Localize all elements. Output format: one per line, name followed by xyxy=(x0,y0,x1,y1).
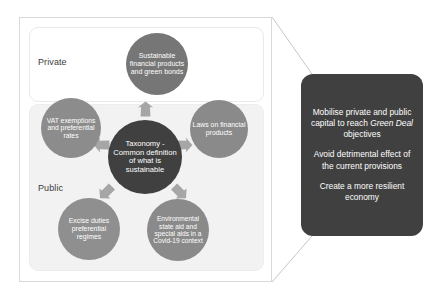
callout-text-post: objectives xyxy=(343,129,380,139)
node-label: Laws on financial products xyxy=(192,121,246,136)
node-taxonomy-center[interactable]: Taxonomy - Common definition of what is … xyxy=(108,120,182,194)
arrow-down-left-icon xyxy=(98,182,115,198)
node-sustainable-finance[interactable]: Sustainable financial products and green… xyxy=(126,33,188,95)
callout-panel: Mobilise private and public capital to r… xyxy=(301,74,423,236)
callout-spacer xyxy=(309,172,415,181)
node-label: Excise duties preferential regimes xyxy=(60,217,118,240)
diagram-canvas: Private Public Sustainable financial pro… xyxy=(0,0,433,299)
node-label: Taxonomy - Common definition of what is … xyxy=(110,140,180,174)
sector-label-public: Public xyxy=(38,183,63,193)
callout-item-mobilise-capital: Mobilise private and public capital to r… xyxy=(309,107,415,141)
node-excise-duties[interactable]: Excise duties preferential regimes xyxy=(58,198,120,260)
node-label: Sustainable financial products and green… xyxy=(128,52,186,75)
node-state-aid[interactable]: Environmental state aid and special aids… xyxy=(147,199,209,261)
node-label: Environmental state aid and special aids… xyxy=(149,215,207,245)
callout-item-resilient-economy: Create a more resilient economy xyxy=(309,181,415,204)
arrow-down-right-icon xyxy=(170,182,187,198)
callout-spacer xyxy=(309,140,415,149)
node-laws-financial-products[interactable]: Laws on financial products xyxy=(190,100,248,158)
sector-label-private: Private xyxy=(38,57,67,67)
callout-text-emphasis: Green Deal xyxy=(370,118,413,128)
node-vat-exemptions[interactable]: VAT exemptions and preferential rates xyxy=(41,98,101,158)
arrow-up-icon xyxy=(137,101,154,117)
node-label: VAT exemptions and preferential rates xyxy=(43,117,99,140)
callout-item-avoid-detrimental: Avoid detrimental effect of the current … xyxy=(309,149,415,172)
